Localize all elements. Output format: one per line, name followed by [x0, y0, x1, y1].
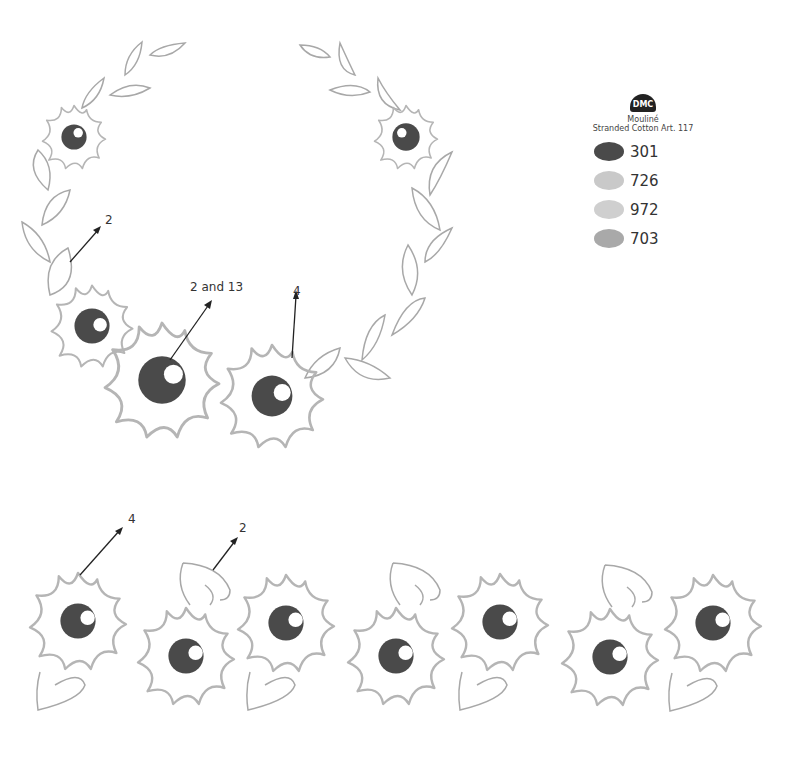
thread-swatch-row: 703: [594, 224, 703, 253]
thread-color-swatch: [594, 142, 624, 161]
wreath-flower: [221, 345, 323, 447]
thread-code: 726: [630, 172, 659, 190]
wreath-flower: [43, 106, 106, 169]
wreath-label: 2: [105, 213, 113, 227]
thread-code: 703: [630, 230, 659, 248]
legend-line2: Stranded Cotton Art. 117: [583, 124, 703, 133]
thread-legend: DMC Mouliné Stranded Cotton Art. 117 301…: [583, 94, 703, 253]
wreath-flower: [52, 286, 133, 367]
wreath-arrows: [70, 226, 299, 360]
thread-color-swatch: [594, 200, 624, 219]
border-label: 2: [239, 521, 247, 535]
legend-line1: Mouliné: [583, 115, 703, 124]
thread-swatch-row: 726: [594, 166, 703, 195]
wreath-label: 2 and 13: [190, 280, 243, 294]
wreath-label: 4: [293, 284, 301, 298]
border-label: 4: [128, 512, 136, 526]
thread-swatch-row: 301: [594, 137, 703, 166]
thread-swatch-row: 972: [594, 195, 703, 224]
thread-color-swatch: [594, 171, 624, 190]
thread-code: 301: [630, 143, 659, 161]
thread-color-swatch: [594, 229, 624, 248]
border-arrows: [80, 527, 238, 575]
thread-code: 972: [630, 201, 659, 219]
dmc-logo-icon: DMC: [630, 94, 656, 112]
wreath-flower: [375, 106, 438, 169]
border-leaves: [37, 563, 717, 711]
